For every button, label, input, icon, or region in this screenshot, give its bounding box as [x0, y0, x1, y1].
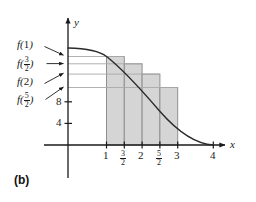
leader-arrow-f1 — [45, 47, 64, 56]
label-leader-arrows — [45, 47, 64, 100]
x-tick-label-3-over-2: 3 2 — [120, 149, 126, 167]
fraction-three-halves: 3 2 — [120, 150, 126, 167]
y-tick-label-8: 8 — [56, 96, 62, 107]
paren-close: ) — [29, 75, 33, 87]
leader-arrow-f2 — [45, 73, 64, 83]
function-label-f-of-5-over-2: f(52) — [17, 92, 33, 109]
x-axis-label: x — [230, 139, 235, 150]
function-label-f-of-3-over-2: f(32) — [17, 56, 33, 73]
y-axis-label: y — [74, 17, 79, 28]
panel-tag: (b) — [14, 174, 29, 186]
riemann-rectangle — [160, 88, 178, 146]
riemann-sum-figure: y x 8 4 1 3 2 2 5 2 3 4 f(1) f(32) f(2) … — [0, 0, 256, 202]
riemann-rectangle — [142, 74, 160, 145]
x-tick-label-3: 3 — [174, 150, 180, 161]
y-tick-label-4: 4 — [56, 117, 62, 128]
paren-close: ) — [30, 57, 34, 69]
paren-close: ) — [29, 38, 33, 50]
x-tick-label-5-over-2: 5 2 — [156, 149, 162, 167]
function-label-f-of-2: f(2) — [17, 76, 33, 87]
paren-close: ) — [30, 93, 34, 105]
function-label-f-of-1: f(1) — [17, 39, 33, 50]
x-tick-label-1: 1 — [103, 150, 109, 161]
x-tick-label-4: 4 — [210, 150, 216, 161]
fraction-five-halves: 5 2 — [156, 150, 162, 167]
riemann-rectangles — [107, 57, 178, 146]
x-tick-label-2: 2 — [138, 150, 144, 161]
plot-canvas — [0, 0, 256, 202]
